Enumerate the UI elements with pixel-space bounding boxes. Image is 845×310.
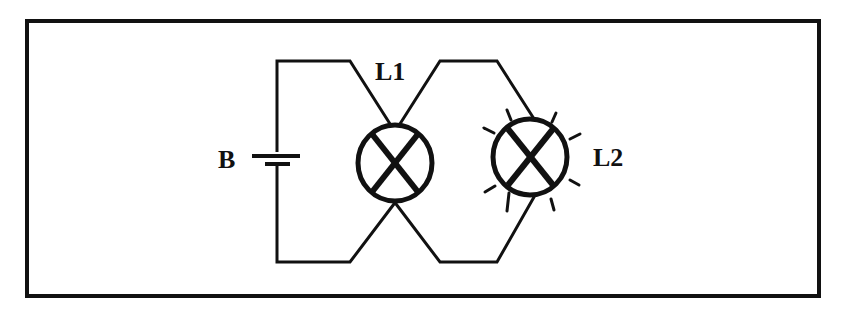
wire-middle-top bbox=[398, 61, 538, 127]
lamp-l1-label: L1 bbox=[375, 57, 405, 86]
circuit-diagram: B L1 L2 bbox=[0, 0, 845, 310]
lamp-l1 bbox=[358, 125, 432, 201]
lamp-l2 bbox=[493, 119, 567, 195]
wire-middle-bottom bbox=[393, 190, 538, 262]
lamp-l2-label: L2 bbox=[593, 143, 623, 172]
battery-label: B bbox=[218, 145, 235, 174]
battery-symbol bbox=[252, 156, 300, 164]
